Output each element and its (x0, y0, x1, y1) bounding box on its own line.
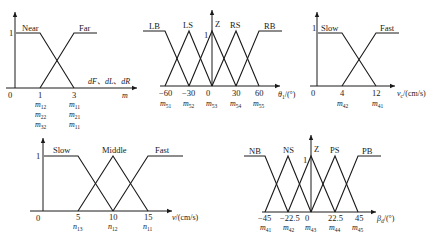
tick-5: 5 (76, 212, 80, 222)
n12-label: n12 (108, 222, 118, 232)
m42-label: m42 (283, 223, 295, 233)
ps-curve (311, 156, 358, 212)
y-tick-1: 1 (312, 23, 316, 33)
fast-label: Fast (380, 23, 395, 33)
m54-label: m54 (230, 99, 242, 109)
x-axis-label: θ1/(°) (278, 90, 296, 100)
n13-label: n13 (73, 222, 83, 232)
nb-curve (244, 156, 288, 212)
tick-30: 30 (232, 88, 241, 98)
ns-label: NS (283, 145, 294, 155)
tick-10: 10 (109, 212, 118, 222)
m45-label: m45 (352, 223, 364, 233)
d-series-label: dF、dL、dR (88, 77, 130, 86)
tick-3: 3 (72, 90, 76, 100)
pb-curve (335, 156, 381, 212)
panel-theta1: LB LS Z RS RB 1 −60 −30 0 30 60 m51 m52 … (143, 10, 296, 109)
pb-label: PB (362, 146, 373, 156)
tick-0: 0 (206, 88, 210, 98)
m12-label: m12 (35, 100, 47, 110)
near-label: Near (22, 23, 39, 33)
x-axis-label: vc/(cm/s) (397, 89, 426, 99)
slow-curve (44, 156, 113, 211)
m31-label: m11 (69, 120, 80, 130)
y-tick-1: 1 (36, 151, 40, 161)
origin-label: 0 (36, 213, 40, 223)
tick-neg30: −30 (182, 88, 195, 98)
m42-label: m42 (337, 99, 349, 109)
origin-label: 0 (311, 88, 315, 98)
m41-label: m41 (260, 223, 272, 233)
far-label: Far (79, 23, 91, 33)
fast-curve (113, 156, 183, 211)
tick-60: 60 (255, 88, 264, 98)
fast-label: Fast (155, 145, 170, 155)
m22-label: m22 (35, 110, 47, 120)
m55-label: m55 (253, 99, 265, 109)
lb-curve (143, 31, 189, 86)
nb-label: NB (249, 146, 261, 156)
tick-45: 45 (355, 213, 364, 223)
rb-label: RB (264, 21, 276, 31)
m51-label: m51 (160, 99, 172, 109)
middle-curve (78, 156, 148, 211)
m11-label: m11 (69, 100, 80, 110)
m43-label: m43 (305, 223, 317, 233)
slow-label: Slow (321, 23, 339, 33)
middle-label: Middle (102, 145, 127, 155)
tick-neg60: −60 (159, 88, 172, 98)
tick-neg45: −45 (258, 213, 271, 223)
y-tick-1: 1 (303, 155, 307, 165)
m44-label: m44 (329, 223, 341, 233)
panel-v: 1 Slow Middle Fast 0 5 10 15 n13 n12 n11… (30, 138, 199, 232)
origin-label: 0 (8, 90, 12, 100)
tick-1: 1 (38, 90, 42, 100)
m21-label: m21 (69, 110, 81, 120)
rb-curve (236, 31, 282, 86)
y-tick-1: 1 (9, 28, 13, 38)
rs-label: RS (230, 20, 241, 30)
ls-label: LS (183, 20, 193, 30)
ps-label: PS (330, 145, 340, 155)
x-axis-label: βd/(°) (376, 214, 395, 224)
tick-neg22.5: −22.5 (280, 213, 300, 223)
tick-22.5: 22.5 (328, 213, 343, 223)
lb-label: LB (149, 21, 160, 31)
z-label: Z (314, 144, 319, 154)
n11-label: n11 (143, 222, 153, 232)
m53-label: m53 (206, 99, 218, 109)
z-label: Z (215, 19, 220, 29)
x-axis-label: v/(cm/s) (172, 213, 199, 222)
m41-label: m41 (372, 99, 384, 109)
m52-label: m52 (183, 99, 195, 109)
m32-label: m32 (35, 120, 47, 130)
panel-vc: 1 Slow Fast 0 4 12 m42 m41 vc/(cm/s) (310, 12, 426, 109)
y-tick-1: 1 (204, 30, 208, 40)
tick-15: 15 (144, 212, 153, 222)
panel-distance: 1 Near Far 0 1 3 dF、dL、dR m m12 m22 m32 … (6, 12, 137, 130)
tick-4: 4 (340, 88, 345, 98)
tick-12: 12 (372, 88, 381, 98)
tick-0: 0 (305, 213, 309, 223)
panel-betad: NB NS Z PS PB 1 −45 −22.5 0 22.5 45 m41 … (244, 135, 395, 233)
membership-functions-figure: 1 Near Far 0 1 3 dF、dL、dR m m12 m22 m32 … (0, 0, 443, 243)
rs-curve (212, 31, 259, 86)
x-axis-label: m (122, 91, 128, 100)
slow-label: Slow (53, 145, 71, 155)
